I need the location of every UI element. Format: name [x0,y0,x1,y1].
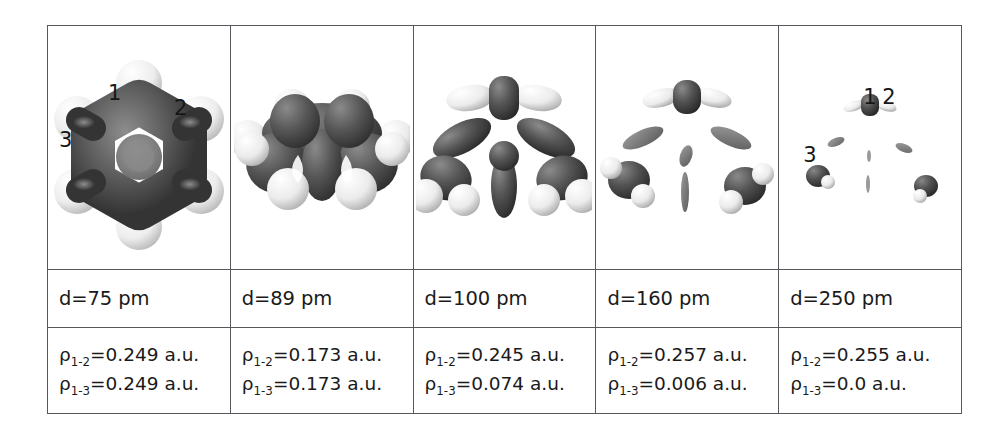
rho-symbol: ρ [790,373,802,394]
render-cell-4 [596,26,779,270]
render-cell-1: 1 2 3 [48,26,231,270]
rho-subscript-13: 1-3 [71,383,90,397]
rho-subscript-13: 1-3 [436,383,455,397]
rho-symbol: ρ [59,373,71,394]
distance-label-2: d=89 pm [231,287,413,310]
rho-subscript-12: 1-2 [619,355,638,369]
distance-cell-4: d=160 pm [596,270,779,328]
rho-value-13: =0.0 a.u. [821,373,907,394]
rho-value-13: =0.249 a.u. [90,373,199,394]
density-line-12: ρ1-2=0.249 a.u. [59,342,230,371]
distance-cell-3: d=100 pm [413,270,596,328]
density-values-3: ρ1-2=0.245 a.u. ρ1-3=0.074 a.u. [414,342,596,399]
table-row-densities: ρ1-2=0.249 a.u. ρ1-3=0.249 a.u. ρ1-2=0.1… [48,328,962,414]
isosurface-render-2 [231,26,413,269]
molecule-scene-1 [48,26,230,269]
rho-value-12: =0.249 a.u. [90,344,199,365]
rho-symbol: ρ [242,373,254,394]
density-line-12: ρ1-2=0.245 a.u. [425,342,596,371]
density-cell-5: ρ1-2=0.255 a.u. ρ1-3=0.0 a.u. [779,328,962,414]
distance-label-3: d=100 pm [414,287,596,310]
rho-symbol: ρ [425,373,437,394]
density-values-2: ρ1-2=0.173 a.u. ρ1-3=0.173 a.u. [231,342,413,399]
density-cell-1: ρ1-2=0.249 a.u. ρ1-3=0.249 a.u. [48,328,231,414]
density-line-12: ρ1-2=0.255 a.u. [790,342,961,371]
density-line-13: ρ1-3=0.006 a.u. [607,371,778,400]
distance-label-4: d=160 pm [596,287,778,310]
rho-symbol: ρ [59,344,71,365]
figure-table: 1 2 3 [47,25,962,410]
rho-subscript-12: 1-2 [254,355,273,369]
rho-subscript-13: 1-3 [619,383,638,397]
density-line-13: ρ1-3=0.249 a.u. [59,371,230,400]
rho-value-12: =0.257 a.u. [638,344,747,365]
table-row-distances: d=75 pm d=89 pm d=100 pm d=160 pm d=250 … [48,270,962,328]
density-line-12: ρ1-2=0.257 a.u. [607,342,778,371]
distance-cell-2: d=89 pm [230,270,413,328]
density-line-12: ρ1-2=0.173 a.u. [242,342,413,371]
isosurface-render-3 [414,26,596,269]
isosurface-render-4 [596,26,778,269]
rho-value-12: =0.173 a.u. [273,344,382,365]
density-cell-2: ρ1-2=0.173 a.u. ρ1-3=0.173 a.u. [230,328,413,414]
rho-subscript-13: 1-3 [802,383,821,397]
render-cell-3 [413,26,596,270]
rho-subscript-12: 1-2 [436,355,455,369]
distance-cell-1: d=75 pm [48,270,231,328]
isosurface-render-1: 1 2 3 [48,26,230,269]
atom-label-3: 3 [803,145,816,166]
rho-subscript-12: 1-2 [802,355,821,369]
distance-label-1: d=75 pm [48,287,230,310]
rho-value-13: =0.074 a.u. [456,373,565,394]
rho-symbol: ρ [242,344,254,365]
atom-label-2: 2 [882,87,895,108]
rho-value-12: =0.245 a.u. [456,344,565,365]
density-line-13: ρ1-3=0.074 a.u. [425,371,596,400]
molecule-scene-2 [231,26,413,269]
density-cell-4: ρ1-2=0.257 a.u. ρ1-3=0.006 a.u. [596,328,779,414]
density-line-13: ρ1-3=0.0 a.u. [790,371,961,400]
rho-value-12: =0.255 a.u. [821,344,930,365]
rho-symbol: ρ [607,344,619,365]
rho-subscript-12: 1-2 [71,355,90,369]
render-cell-2 [230,26,413,270]
rho-subscript-13: 1-3 [254,383,273,397]
rho-value-13: =0.173 a.u. [273,373,382,394]
isosurface-table: 1 2 3 [47,25,962,414]
atom-label-2: 2 [174,98,187,119]
density-cell-3: ρ1-2=0.245 a.u. ρ1-3=0.074 a.u. [413,328,596,414]
atom-label-1: 1 [108,83,121,104]
rho-symbol: ρ [607,373,619,394]
distance-cell-5: d=250 pm [779,270,962,328]
distance-label-5: d=250 pm [779,287,961,310]
rho-symbol: ρ [790,344,802,365]
isosurface-render-5: 1 2 3 [779,26,961,269]
density-values-4: ρ1-2=0.257 a.u. ρ1-3=0.006 a.u. [596,342,778,399]
molecule-scene-4 [596,26,778,269]
atom-label-3: 3 [59,130,72,151]
atom-label-1: 1 [863,87,876,108]
density-line-13: ρ1-3=0.173 a.u. [242,371,413,400]
density-values-5: ρ1-2=0.255 a.u. ρ1-3=0.0 a.u. [779,342,961,399]
rho-value-13: =0.006 a.u. [638,373,747,394]
render-cell-5: 1 2 3 [779,26,962,270]
density-values-1: ρ1-2=0.249 a.u. ρ1-3=0.249 a.u. [48,342,230,399]
molecule-scene-3 [414,26,596,269]
rho-symbol: ρ [425,344,437,365]
table-row-renders: 1 2 3 [48,26,962,270]
